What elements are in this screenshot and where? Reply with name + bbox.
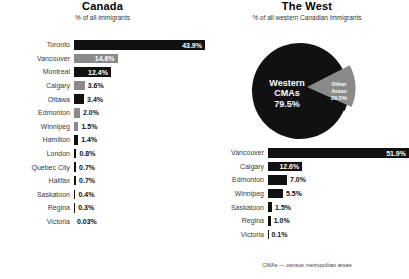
bar-value-label: 2.0%: [83, 109, 99, 116]
bar: 51.9%: [268, 148, 409, 158]
bar-row-label: Regina: [205, 217, 268, 224]
bar: [268, 216, 271, 226]
west-chart-title: The West: [205, 0, 409, 12]
bar: [74, 149, 76, 159]
bar-row: Calgary12.6%: [205, 160, 409, 174]
bar-row: Halifax0.7%: [0, 174, 205, 188]
pie-value-western: 79.5%: [274, 99, 300, 109]
bar-row-label: Edmonton: [0, 109, 74, 116]
bar-value-label: 0.1%: [271, 231, 287, 238]
bar-value-label: 51.9%: [386, 149, 406, 156]
bar-track: 14.6%: [74, 52, 205, 66]
bar-row-label: Montreal: [0, 68, 74, 75]
bar-row: Edmonton7.0%: [205, 173, 409, 187]
pie-svg: Western CMAs 79.5% Other Areas 20.5%: [232, 42, 382, 140]
bar-row: Saskatoon0.4%: [0, 188, 205, 202]
bar-track: 43.9%: [74, 38, 205, 52]
bar-track: 0.7%: [74, 174, 205, 188]
bar-row: London0.8%: [0, 147, 205, 161]
bar-value-label: 3.6%: [88, 82, 104, 89]
bar-row-label: Vancouver: [0, 55, 74, 62]
west-chart-subtitle: % of all western Canadian immigrants: [205, 14, 409, 21]
bar-row: Regina1.0%: [205, 214, 409, 228]
bar-row: Quebec City0.7%: [0, 160, 205, 174]
bar-value-label: 0.03%: [77, 218, 97, 225]
bar-row-label: Halifax: [0, 177, 74, 184]
bar-row-label: Saskatoon: [205, 204, 268, 211]
bar-row: Hamilton1.4%: [0, 133, 205, 147]
bar-row: Regina0.3%: [0, 201, 205, 215]
bar-row-label: Calgary: [0, 82, 74, 89]
bar-row-label: Ottawa: [0, 96, 74, 103]
bar-row-label: Saskatoon: [0, 191, 74, 198]
pie-label-western-line1: Western: [269, 78, 304, 88]
bar: [74, 122, 78, 132]
canada-chart-panel: Canada % of all immigrants Toronto43.9%V…: [0, 0, 205, 279]
bar-value-label: 0.3%: [78, 204, 94, 211]
pie-value-other: 20.5%: [331, 95, 347, 101]
bar-value-label: 0.7%: [79, 164, 95, 171]
bar-row: Winnipeg5.5%: [205, 187, 409, 201]
bar-row-label: Hamilton: [0, 136, 74, 143]
bar-track: 3.4%: [74, 92, 205, 106]
bar: [268, 175, 287, 185]
bar: 14.6%: [74, 54, 118, 64]
bar: [268, 189, 283, 199]
bar-value-label: 12.4%: [88, 68, 108, 75]
bar-row: Saskatoon1.5%: [205, 200, 409, 214]
bar-row: Victoria0.03%: [0, 215, 205, 229]
bar: [74, 135, 78, 145]
bar-row: Edmonton2.0%: [0, 106, 205, 120]
pie-label-other-line2: Areas: [331, 88, 347, 94]
west-chart-panel: The West % of all western Canadian immig…: [205, 0, 409, 279]
bar-row-label: Victoria: [0, 218, 74, 225]
bar-track: 12.4%: [74, 65, 205, 79]
bar: [74, 94, 84, 104]
bar-row: Ottawa3.4%: [0, 92, 205, 106]
west-bar-list: Vancouver51.9%Calgary12.6%Edmonton7.0%Wi…: [205, 146, 409, 241]
bar-row-label: Vancouver: [205, 149, 268, 156]
bar-track: 2.0%: [74, 106, 205, 120]
bar-row-label: Toronto: [0, 41, 74, 48]
bar-row-label: Quebec City: [0, 164, 74, 171]
bar: [74, 176, 76, 186]
bar: 12.4%: [74, 67, 111, 77]
bar-value-label: 14.6%: [95, 55, 115, 62]
bar-row-label: London: [0, 150, 74, 157]
bar-value-label: 3.4%: [87, 96, 103, 103]
bar-value-label: 1.5%: [81, 123, 97, 130]
bar-value-label: 7.0%: [290, 176, 306, 183]
bar-track: 0.1%: [268, 228, 409, 242]
bar: [74, 162, 76, 172]
bar-value-label: 0.4%: [78, 191, 94, 198]
bar-track: 0.8%: [74, 147, 205, 161]
pie-label-other-line1: Other: [332, 81, 348, 87]
bar-track: 0.4%: [74, 188, 205, 202]
bar-row: Victoria0.1%: [205, 228, 409, 242]
bar-row-label: Victoria: [205, 231, 268, 238]
bar: [74, 190, 75, 200]
bar: [74, 203, 75, 213]
bar-value-label: 0.8%: [79, 150, 95, 157]
pie-label-western-line2: CMAs: [274, 88, 300, 98]
bar: [268, 202, 272, 212]
bar-value-label: 5.5%: [286, 190, 302, 197]
bar-row-label: Winnipeg: [205, 190, 268, 197]
west-pie-chart: Western CMAs 79.5% Other Areas 20.5%: [205, 42, 409, 140]
bar-track: 0.7%: [74, 160, 205, 174]
bar-track: 12.6%: [268, 160, 409, 174]
bar-track: 7.0%: [268, 173, 409, 187]
bar: 43.9%: [74, 40, 205, 50]
bar-track: 1.5%: [74, 120, 205, 134]
bar-track: 51.9%: [268, 146, 409, 160]
bar: [74, 81, 85, 91]
bar-track: 3.6%: [74, 79, 205, 93]
bar-row: Montreal12.4%: [0, 65, 205, 79]
bar-value-label: 12.6%: [279, 163, 299, 170]
bar-row-label: Winnipeg: [0, 123, 74, 130]
bar: 12.6%: [268, 162, 302, 172]
bar-value-label: 1.5%: [275, 204, 291, 211]
bar-row-label: Calgary: [205, 163, 268, 170]
bar-track: 1.4%: [74, 133, 205, 147]
bar-value-label: 0.7%: [79, 177, 95, 184]
